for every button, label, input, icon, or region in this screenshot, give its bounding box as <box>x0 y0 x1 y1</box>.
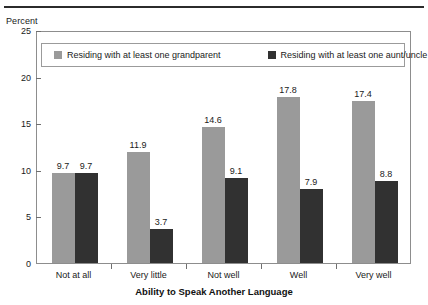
x-axis-title: Ability to Speak Another Language <box>0 286 428 297</box>
x-axis-tick-mark <box>186 264 187 269</box>
legend-entry-grandparent: Residing with at least one grandparent <box>54 50 221 60</box>
y-axis-tick-mark <box>36 171 41 172</box>
bar <box>225 178 248 263</box>
y-axis-tick-mark <box>36 78 41 79</box>
bar <box>75 173 98 263</box>
legend-label-aunt-uncle: Residing with at least one aunt/uncle <box>281 50 428 60</box>
legend-swatch-aunt-uncle <box>268 51 276 59</box>
bar-value-label: 7.9 <box>305 177 318 187</box>
bar <box>52 173 75 263</box>
y-axis-tick-labels: 0510152025 <box>0 0 31 305</box>
bar-value-label: 3.7 <box>155 217 168 227</box>
bar-value-label: 9.7 <box>80 161 93 171</box>
x-axis-category-label: Not well <box>207 270 239 280</box>
header-divider-rule <box>4 6 424 8</box>
legend-entry-aunt-uncle: Residing with at least one aunt/uncle <box>268 50 428 60</box>
legend-label-grandparent: Residing with at least one grandparent <box>67 50 221 60</box>
x-axis-category-label: Very little <box>130 270 167 280</box>
x-axis-category-label: Very well <box>355 270 391 280</box>
x-axis-category-label: Not at all <box>56 270 92 280</box>
y-axis-tick-label: 25 <box>21 26 31 36</box>
x-axis-tick-mark <box>336 264 337 269</box>
bar <box>150 229 173 263</box>
y-axis-tick-label: 0 <box>26 259 31 269</box>
bar-value-label: 11.9 <box>130 140 147 150</box>
bar-value-label: 9.7 <box>57 161 70 171</box>
bar <box>375 181 398 263</box>
bar <box>277 97 300 263</box>
y-axis-tick-mark <box>36 124 41 125</box>
bar-value-label: 17.8 <box>279 85 297 95</box>
bar-value-label: 9.1 <box>230 166 243 176</box>
x-axis-category-label: Well <box>290 270 307 280</box>
bar <box>202 127 225 263</box>
y-axis-tick-mark <box>36 31 41 32</box>
bar-value-label: 8.8 <box>380 169 393 179</box>
x-axis-tick-mark <box>261 264 262 269</box>
bar <box>127 152 150 263</box>
bar <box>300 189 323 263</box>
bar-value-label: 17.4 <box>354 89 372 99</box>
y-axis-tick-label: 15 <box>21 119 31 129</box>
y-axis-tick-mark <box>36 217 41 218</box>
y-axis-tick-label: 5 <box>26 212 31 222</box>
legend-swatch-grandparent <box>54 51 62 59</box>
y-axis-tick-label: 10 <box>21 166 31 176</box>
chart-legend: Residing with at least one grandparent R… <box>41 43 405 67</box>
y-axis-tick-label: 20 <box>21 73 31 83</box>
bar <box>352 101 375 263</box>
bar-value-label: 14.6 <box>204 115 222 125</box>
x-axis-tick-mark <box>111 264 112 269</box>
